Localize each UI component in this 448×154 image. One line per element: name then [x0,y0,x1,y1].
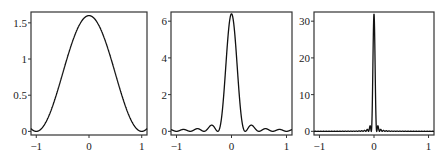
y-tick-label: 0 [162,125,168,137]
y-tick-label: 30 [299,15,311,27]
y-tick-label: 10 [299,89,311,101]
x-tick-label: 0 [86,140,92,152]
chart-panel-2: 0246−101 [162,12,293,152]
y-tick-label: 0.5 [13,89,27,101]
x-tick-label: 1 [284,140,290,152]
chart-panel-1: 00.511.5−101 [13,12,147,152]
y-tick-label: 1.5 [13,17,27,29]
x-tick-label: 1 [426,140,432,152]
kernel-plots: 00.511.5−1010246−1010102030−101 [0,0,448,154]
kernel-curve [314,14,434,131]
y-tick-label: 0 [22,125,28,137]
y-tick-label: 1 [22,53,28,65]
kernel-curve [171,14,292,131]
x-tick-label: −1 [314,140,326,152]
y-tick-label: 6 [162,15,168,27]
y-tick-label: 0 [305,125,311,137]
y-tick-label: 2 [162,89,168,101]
y-tick-label: 20 [299,52,311,64]
x-tick-label: −1 [30,140,42,152]
x-tick-label: 0 [371,140,377,152]
kernel-curve [31,16,147,132]
plot-frame [171,12,292,135]
x-tick-label: 0 [229,140,235,152]
x-tick-label: 1 [139,140,145,152]
x-tick-label: −1 [171,140,183,152]
y-tick-label: 4 [162,52,168,64]
chart-panel-3: 0102030−101 [299,12,434,152]
